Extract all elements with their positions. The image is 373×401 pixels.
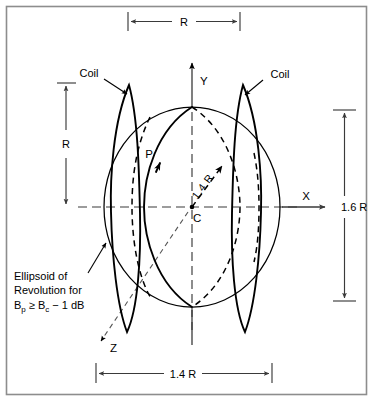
figure-border (7, 7, 367, 395)
dimension-right-label: 1.6 R (341, 201, 367, 213)
y-axis-label: Y (200, 75, 208, 87)
diagram-canvas: R R 1.6 R 1.4 R (0, 0, 373, 401)
dimension-left-label: R (62, 138, 70, 150)
coil-left-annotation: Coil (80, 67, 127, 94)
dimension-top-label: R (180, 16, 188, 28)
dimension-bottom-1-4R: 1.4 R (96, 363, 272, 383)
figure-container: R R 1.6 R 1.4 R (0, 0, 373, 401)
dimension-left-R: R (57, 83, 76, 204)
caption-line-2: Revolution for (14, 284, 82, 296)
center-label: C (193, 212, 201, 224)
meridian-direction-arrow (156, 163, 160, 172)
caption-tail: − 1 dB (49, 299, 84, 311)
dimension-right-1-6R: 1.6 R (333, 110, 367, 301)
coil-right-shape (232, 85, 261, 332)
radius-diagonal-label: 1.4 R (189, 172, 216, 202)
point-p-label: P (145, 148, 153, 160)
caption-block: Ellipsoid of Revolution for Bp ≥ Bc − 1 … (14, 270, 84, 314)
z-axis-label: Z (110, 342, 117, 354)
center-dot (190, 205, 195, 210)
caption-line-3: Bp ≥ Bc − 1 dB (14, 299, 84, 314)
coil-left-shape (111, 85, 140, 332)
dimension-bottom-label: 1.4 R (170, 368, 196, 380)
coil-right-annotation: Coil (245, 68, 289, 95)
meridian-dashed-left (132, 117, 152, 300)
caption-line-1: Ellipsoid of (14, 270, 68, 282)
caption-bp-base: B (14, 299, 21, 311)
x-axis-label: X (302, 190, 310, 202)
x-axis: X (282, 190, 325, 207)
coil-left-label: Coil (80, 67, 99, 79)
caption-leader (88, 243, 106, 273)
dimension-top-R: R (128, 12, 240, 31)
radius-arrow-1-4R: 1.4 R (189, 166, 222, 207)
caption-relation: ≥ B (26, 299, 46, 311)
coil-right-label: Coil (271, 68, 290, 80)
